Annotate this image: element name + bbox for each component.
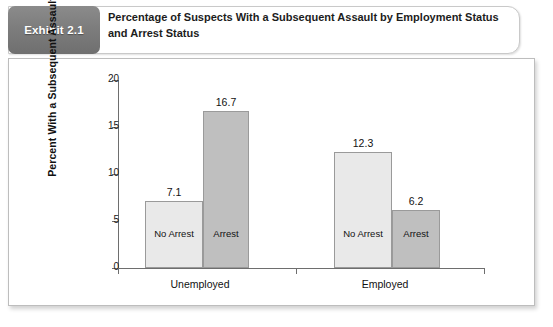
exhibit-title: Percentage of Suspects With a Subsequent… [108,10,508,41]
exhibit-number-label: Exhibit 2.1 [24,24,84,36]
exhibit-number-tag: Exhibit 2.1 [8,6,100,54]
chart-panel [8,58,535,306]
exhibit-figure: Exhibit 2.1 Percentage of Suspects With … [0,0,553,327]
